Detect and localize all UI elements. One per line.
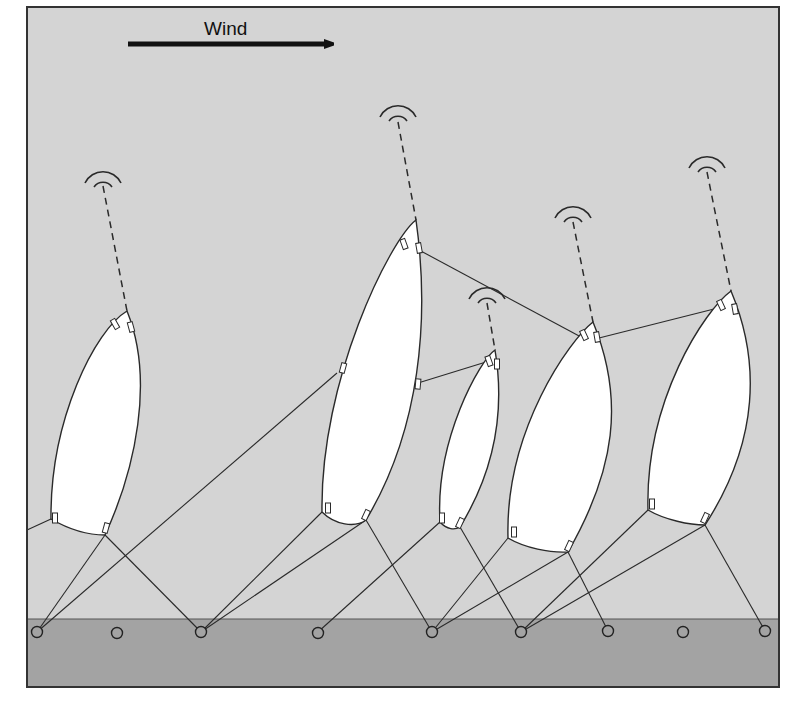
sail-tab-icon <box>732 304 739 315</box>
sail-tab-icon <box>53 513 58 523</box>
sail-tab-icon <box>415 379 421 389</box>
anchor-point-icon <box>427 627 438 638</box>
wind-label: Wind <box>204 18 247 39</box>
sail-tab-icon <box>512 527 517 537</box>
sail-tab-icon <box>416 243 423 254</box>
anchor-point-icon <box>678 627 689 638</box>
sail-tab-icon <box>594 332 601 343</box>
anchor-point-icon <box>112 628 123 639</box>
sail-tab-icon <box>440 513 445 523</box>
anchor-point-icon <box>760 626 771 637</box>
anchor-point-icon <box>32 627 43 638</box>
anchor-point-icon <box>313 628 324 639</box>
anchor-point-icon <box>516 627 527 638</box>
kite-sail-diagram: Wind <box>0 0 799 707</box>
sail-tab-icon <box>650 499 655 509</box>
anchor-point-icon <box>196 627 207 638</box>
anchor-point-icon <box>603 626 614 637</box>
sail-tab-icon <box>495 359 500 369</box>
sail-tab-icon <box>326 503 331 513</box>
ground-band <box>27 619 779 687</box>
